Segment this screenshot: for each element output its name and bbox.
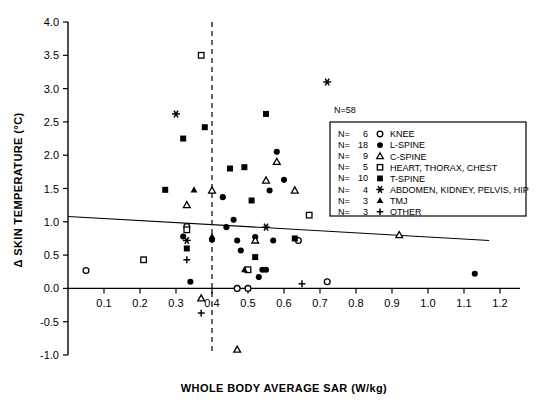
y-tick-label: 0.5: [44, 249, 59, 261]
x-tick-label: 1.1: [456, 297, 471, 309]
marker-open-triangle: [396, 232, 403, 238]
series-heart-thorax-chest: [141, 53, 312, 273]
marker-plus: [183, 256, 190, 263]
marker-filled-square: [202, 124, 208, 130]
y-tick-label: 2.5: [44, 116, 59, 128]
y-tick-label: 1.0: [44, 216, 59, 228]
plot-canvas: 0.10.20.30.40.50.60.70.80.91.01.11.24.03…: [0, 0, 540, 415]
y-tick-label: 0.0: [44, 282, 59, 294]
marker-filled-square: [377, 175, 383, 181]
legend-series-label: T-SPINE: [390, 174, 425, 184]
marker-filled-circle: [223, 224, 229, 230]
x-tick-label: 0.7: [312, 297, 327, 309]
regression-line: [68, 216, 489, 240]
marker-filled-circle: [234, 237, 240, 243]
marker-filled-square: [252, 254, 258, 260]
legend-series-label: HEART, THORAX, CHEST: [390, 163, 498, 173]
marker-filled-circle: [238, 247, 244, 253]
legend-n-value: 5: [363, 162, 368, 172]
legend-n-value: 3: [363, 207, 368, 217]
legend-n-value: 6: [363, 129, 368, 139]
legend-n-label: N=: [338, 162, 350, 172]
legend-series-label: C-SPINE: [390, 152, 427, 162]
legend-n-label: N=: [338, 140, 350, 150]
x-tick-label: 0.6: [276, 297, 291, 309]
marker-filled-circle: [274, 149, 280, 155]
marker-open-square: [198, 53, 204, 59]
series-knee: [83, 224, 330, 292]
legend-entry: N=4ABDOMEN, KIDNEY, PELVIS, HIP: [338, 185, 529, 195]
marker-plus: [198, 310, 205, 317]
marker-filled-circle: [187, 279, 193, 285]
marker-open-triangle: [291, 187, 298, 193]
x-tick-label: 0.9: [384, 297, 399, 309]
legend-n-value: 4: [363, 185, 368, 195]
y-tick-label: 3.0: [44, 83, 59, 95]
marker-open-triangle: [273, 158, 280, 164]
marker-filled-circle: [256, 274, 262, 280]
y-tick-label: -0.5: [40, 316, 59, 328]
y-tick-label: 3.5: [44, 49, 59, 61]
marker-asterisk: [172, 111, 180, 118]
marker-filled-circle: [377, 142, 383, 148]
marker-asterisk: [262, 224, 270, 231]
y-axis-title: Δ SKIN TEMPERATURE (°C): [12, 112, 24, 267]
legend-n-label: N=: [338, 173, 350, 183]
total-n-label: N=58: [334, 105, 356, 115]
x-tick-label: 0.3: [168, 297, 183, 309]
y-tick-label: 4.0: [44, 16, 59, 28]
marker-open-circle: [83, 268, 89, 274]
legend-series-label: KNEE: [390, 129, 415, 139]
series-tmj: [191, 186, 248, 272]
x-axis-title: WHOLE BODY AVERAGE SAR (W/kg): [181, 382, 387, 394]
legend-n-value: 10: [358, 173, 368, 183]
marker-filled-circle: [231, 217, 237, 223]
y-tick-label: -1.0: [40, 349, 59, 361]
marker-filled-square: [162, 187, 168, 193]
marker-open-circle: [377, 131, 383, 137]
legend-series-label: OTHER: [390, 207, 422, 217]
x-tick-label: 0.2: [132, 297, 147, 309]
marker-filled-circle: [270, 237, 276, 243]
legend-series-label: TMJ: [390, 196, 408, 206]
x-tick-label: 0.8: [348, 297, 363, 309]
x-tick-label: 1.2: [492, 297, 507, 309]
legend-n-label: N=: [338, 196, 350, 206]
marker-filled-circle: [472, 271, 478, 277]
marker-open-square: [306, 212, 312, 218]
marker-open-circle: [324, 279, 330, 285]
y-tick-label: 2.0: [44, 149, 59, 161]
legend-n-label: N=: [338, 185, 350, 195]
marker-plus: [299, 280, 306, 287]
marker-open-square: [141, 257, 147, 263]
legend-series-label: ABDOMEN, KIDNEY, PELVIS, HIP: [390, 185, 529, 195]
x-tick-label: 0.5: [240, 297, 255, 309]
marker-open-triangle: [209, 187, 216, 193]
y-tick-label: 1.5: [44, 183, 59, 195]
marker-filled-square: [227, 166, 233, 172]
legend-n-value: 18: [358, 140, 368, 150]
marker-filled-square: [180, 136, 186, 142]
x-tick-label: 1.0: [420, 297, 435, 309]
marker-open-triangle: [234, 346, 241, 352]
marker-open-square: [184, 227, 190, 233]
marker-filled-square: [249, 197, 255, 203]
marker-filled-square: [184, 245, 190, 251]
legend-n-label: N=: [338, 207, 350, 217]
x-tick-label: 0.1: [96, 297, 111, 309]
marker-filled-circle: [281, 177, 287, 183]
marker-filled-triangle: [209, 233, 216, 239]
marker-filled-triangle: [191, 186, 198, 192]
marker-filled-circle: [220, 194, 226, 200]
marker-filled-square: [292, 235, 298, 241]
marker-filled-square: [241, 164, 247, 170]
marker-open-circle: [234, 286, 240, 292]
marker-filled-circle: [267, 187, 273, 193]
marker-filled-square: [263, 111, 269, 117]
marker-open-triangle: [183, 202, 190, 208]
legend-n-label: N=: [338, 129, 350, 139]
series-abdomen-kidney-pelvis-hip: [172, 79, 331, 244]
legend-n-value: 3: [363, 196, 368, 206]
marker-asterisk: [323, 79, 331, 86]
marker-filled-circle: [263, 267, 269, 273]
